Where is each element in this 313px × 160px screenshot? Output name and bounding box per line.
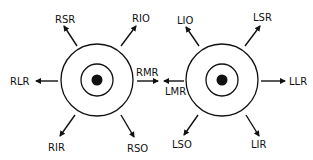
left-eye-pupil [217, 75, 228, 86]
label-rsr: RSR [55, 14, 75, 25]
arrow-rsr [64, 26, 77, 46]
label-lio: LIO [177, 15, 194, 26]
label-rso: RSO [127, 143, 148, 154]
arrow-lir [246, 115, 259, 136]
label-lmr: LMR [165, 86, 186, 97]
arrow-rir [60, 115, 75, 136]
right-eye-pupil [92, 75, 103, 86]
label-rio: RIO [132, 13, 150, 24]
arrow-lsr [245, 26, 260, 46]
label-lsr: LSR [253, 12, 272, 23]
label-lso: LSO [172, 139, 192, 150]
eye-muscle-diagram: RSR RIO RLR RMR RIR RSO LIO LSR LMR LLR … [0, 0, 313, 160]
arrow-rso [121, 115, 134, 137]
left-eye: LIO LSR LMR LLR LSO LIR [164, 12, 307, 150]
label-lir: LIR [251, 139, 267, 150]
label-llr: LLR [289, 76, 307, 87]
label-rmr: RMR [136, 67, 159, 78]
arrow-lio [186, 27, 199, 46]
label-rir: RIR [48, 142, 65, 153]
label-rlr: RLR [10, 76, 30, 87]
arrow-lso [184, 115, 198, 135]
right-eye: RSR RIO RLR RMR RIR RSO [10, 13, 159, 154]
arrow-rio [121, 26, 136, 46]
